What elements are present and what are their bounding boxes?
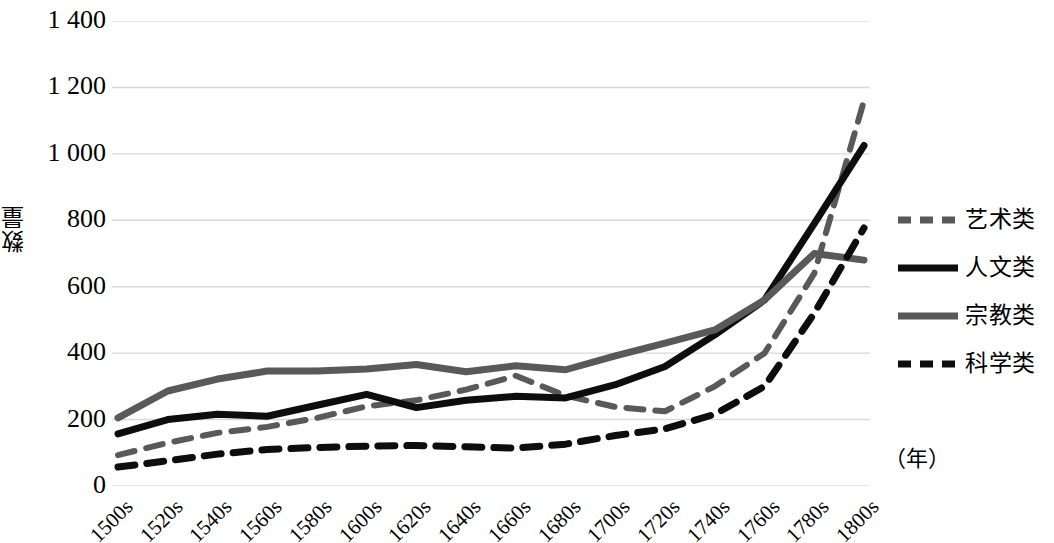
y-axis-tick-label: 1 400 (28, 7, 106, 33)
x-axis-tick-label: 1800s (823, 496, 883, 543)
x-axis-tick-label: 1780s (773, 496, 833, 543)
y-axis-tick-label: 600 (28, 273, 106, 299)
legend-label: 科学类 (965, 352, 1036, 376)
y-axis-tick-labels: 1 4001 2001 0008006004002000 (24, 0, 106, 543)
x-axis-unit-label: （年） (884, 448, 950, 470)
legend-item-0[interactable]: 艺术类 (897, 196, 1049, 244)
x-axis-tick-label: 1580s (276, 496, 336, 543)
x-axis-tick-label: 1600s (325, 496, 385, 543)
line-chart: 数量 1 4001 2001 0008006004002000 1500s152… (0, 0, 1054, 543)
x-axis-tick-label: 1640s (425, 496, 485, 543)
x-axis-tick-label: 1540s (176, 496, 236, 543)
x-axis-tick-label: 1560s (226, 496, 286, 543)
y-axis-tick-label: 1 200 (28, 73, 106, 99)
plot-svg (112, 21, 870, 486)
plot-area (112, 21, 870, 486)
y-axis-tick-label: 200 (28, 406, 106, 432)
legend-line-swatch-icon (897, 357, 959, 371)
legend-item-1[interactable]: 人文类 (897, 244, 1049, 292)
chart-legend: 艺术类人文类宗教类科学类 (897, 196, 1049, 388)
legend-item-3[interactable]: 科学类 (897, 340, 1049, 388)
legend-label: 人文类 (965, 256, 1036, 280)
legend-label: 艺术类 (965, 208, 1036, 232)
x-axis-tick-label: 1720s (624, 496, 684, 543)
x-axis-tick-label: 1740s (674, 496, 734, 543)
y-axis-tick-label: 1 000 (28, 140, 106, 166)
x-axis-tick-labels: 1500s1520s1540s1560s1580s1600s1620s1640s… (112, 486, 870, 543)
legend-line-swatch-icon (897, 261, 959, 275)
y-axis-tick-label: 400 (28, 339, 106, 365)
legend-line-swatch-icon (897, 309, 959, 323)
x-axis-tick-label: 1520s (126, 496, 186, 543)
x-axis-tick-label: 1680s (524, 496, 584, 543)
x-axis-tick-label: 1620s (375, 496, 435, 543)
x-axis-tick-label: 1700s (574, 496, 634, 543)
legend-item-2[interactable]: 宗教类 (897, 292, 1049, 340)
x-axis-tick-label: 1660s (475, 496, 535, 543)
legend-label: 宗教类 (965, 304, 1036, 328)
legend-line-swatch-icon (897, 213, 959, 227)
series-lines (118, 101, 864, 467)
y-axis-tick-label: 0 (28, 472, 106, 498)
y-axis-tick-label: 800 (28, 206, 106, 232)
x-axis-tick-label: 1760s (723, 496, 783, 543)
